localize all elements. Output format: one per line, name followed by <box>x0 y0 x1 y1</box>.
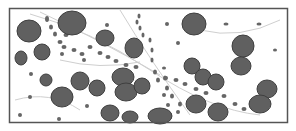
small-particle <box>18 113 22 117</box>
large-cell <box>71 72 89 90</box>
small-particle <box>136 20 139 25</box>
large-cell <box>231 57 251 75</box>
large-cell <box>249 95 271 113</box>
small-particle <box>178 102 182 107</box>
small-particle <box>233 102 238 106</box>
large-cell <box>134 78 150 94</box>
small-particle <box>124 63 129 67</box>
small-particle <box>62 45 67 49</box>
small-particle <box>183 82 188 86</box>
small-particle <box>88 45 93 49</box>
small-particle <box>162 67 166 70</box>
cell-illustration <box>0 0 296 131</box>
micrograph-figure <box>0 0 296 131</box>
small-particle <box>45 16 49 22</box>
large-cell <box>148 108 172 124</box>
small-particle <box>105 23 109 27</box>
small-particle <box>28 95 32 99</box>
small-particle <box>85 104 89 108</box>
small-particle <box>222 94 227 98</box>
small-particle <box>166 103 170 107</box>
small-particle <box>60 52 64 56</box>
small-particle <box>194 87 199 91</box>
small-particle <box>176 41 180 45</box>
small-particle <box>162 93 166 97</box>
large-cell <box>186 95 206 113</box>
large-cell <box>15 51 27 65</box>
large-cell <box>101 105 119 121</box>
large-cell <box>96 30 114 46</box>
background <box>0 0 296 131</box>
small-particle <box>49 25 53 30</box>
small-particle <box>106 55 111 59</box>
small-particle <box>165 22 169 26</box>
large-cell <box>40 74 52 86</box>
small-particle <box>156 78 160 83</box>
small-particle <box>165 86 169 91</box>
small-particle <box>164 76 168 80</box>
small-particle <box>114 59 119 63</box>
small-particle <box>138 14 141 19</box>
large-cell <box>89 80 105 96</box>
small-particle <box>134 65 139 69</box>
small-particle <box>80 52 85 56</box>
small-particle <box>58 40 63 44</box>
large-cell <box>17 20 41 42</box>
small-particle <box>174 78 179 82</box>
large-cell <box>208 103 228 121</box>
small-particle <box>153 70 157 75</box>
small-particle <box>139 26 142 31</box>
small-particle <box>224 23 229 26</box>
small-particle <box>170 94 174 99</box>
small-particle <box>57 117 61 121</box>
large-cell <box>58 11 86 35</box>
small-particle <box>151 58 154 63</box>
small-particle <box>82 58 86 62</box>
small-particle <box>273 49 277 52</box>
small-particle <box>149 38 152 43</box>
large-cell <box>122 111 138 123</box>
small-particle <box>29 72 33 76</box>
large-cell <box>34 44 50 60</box>
small-particle <box>204 91 209 95</box>
small-particle <box>142 33 145 38</box>
small-particle <box>176 110 180 114</box>
small-particle <box>242 107 247 111</box>
large-cell <box>125 38 143 58</box>
large-cell <box>208 74 224 90</box>
small-particle <box>98 51 103 55</box>
large-cell <box>182 13 206 35</box>
large-cell <box>51 87 73 107</box>
small-particle <box>151 48 154 53</box>
small-particle <box>53 32 57 37</box>
small-particle <box>257 23 262 26</box>
small-particle <box>72 48 77 52</box>
large-cell <box>232 35 254 57</box>
